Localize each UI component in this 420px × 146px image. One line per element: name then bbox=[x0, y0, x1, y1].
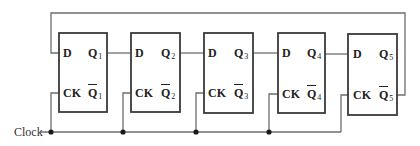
clock-wire-ck3 bbox=[196, 93, 204, 132]
junction-dot bbox=[266, 129, 271, 134]
ff1-d-label: D bbox=[63, 47, 72, 59]
ff2-ck-label: CK bbox=[135, 87, 153, 99]
ff3-qbar-label: Q3 bbox=[234, 87, 248, 101]
clock-wire-ck1 bbox=[51, 93, 59, 132]
ff1-q-label: Q1 bbox=[88, 47, 102, 61]
clock-wire-ck2 bbox=[123, 93, 131, 132]
ff5-qbar-label: Q5 bbox=[379, 89, 393, 103]
ff2-d-label: D bbox=[135, 47, 144, 59]
circuit-wiring bbox=[0, 0, 420, 146]
ff5-d-label: D bbox=[353, 48, 362, 60]
ff5-q-label: Q5 bbox=[379, 48, 393, 62]
ff4-ck-label: CK bbox=[282, 88, 300, 100]
ff2-q-label: Q2 bbox=[161, 47, 175, 61]
junction-dot bbox=[48, 129, 53, 134]
ff5-ck-label: CK bbox=[353, 89, 371, 101]
ff4-qbar-label: Q4 bbox=[307, 88, 321, 102]
ff3-ck-label: CK bbox=[208, 87, 226, 99]
ff4-q-label: Q4 bbox=[307, 47, 321, 61]
flipflop-3-box bbox=[204, 33, 253, 113]
ff4-d-label: D bbox=[282, 47, 291, 59]
junction-dot bbox=[120, 129, 125, 134]
ff3-d-label: D bbox=[208, 47, 217, 59]
junction-dot bbox=[193, 129, 198, 134]
ff1-qbar-label: Q1 bbox=[88, 87, 102, 101]
ff2-qbar-label: Q2 bbox=[161, 87, 175, 101]
ff3-q-label: Q3 bbox=[234, 47, 248, 61]
clock-label: Clock bbox=[14, 125, 43, 140]
ff1-ck-label: CK bbox=[63, 87, 81, 99]
clock-wire-ck5 bbox=[341, 95, 348, 132]
clock-wire-ck4 bbox=[269, 94, 278, 132]
